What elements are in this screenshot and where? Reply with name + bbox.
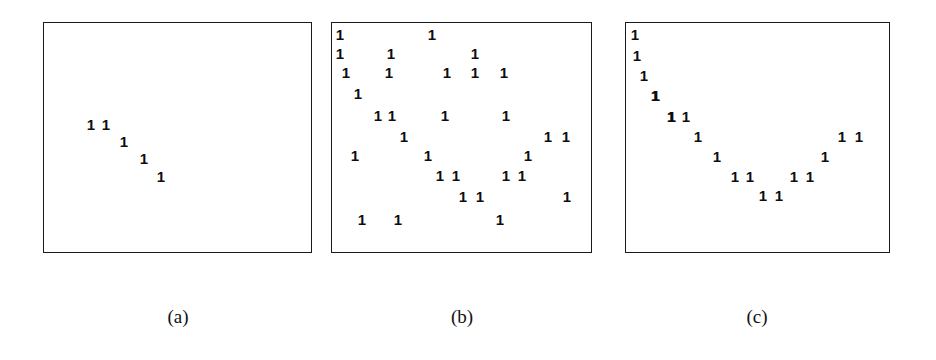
scatter-mark: 1: [562, 129, 570, 144]
scatter-mark: 1: [500, 65, 508, 80]
panel-c-frame: 1111111111111111111: [625, 22, 890, 253]
scatter-mark: 1: [87, 117, 95, 132]
scatter-mark: 1: [821, 149, 829, 164]
scatter-mark: 1: [374, 108, 382, 123]
scatter-mark: 1: [544, 129, 552, 144]
scatter-mark: 1: [855, 129, 863, 144]
scatter-mark: 1: [682, 109, 690, 124]
scatter-mark: 1: [524, 148, 532, 163]
scatter-mark: 1: [102, 117, 110, 132]
panel-a-plot-area: 11111: [44, 23, 311, 252]
scatter-mark: 1: [443, 65, 451, 80]
scatter-mark: 1: [336, 46, 344, 61]
scatter-mark: 1: [640, 68, 648, 83]
scatter-mark: 1: [428, 27, 436, 42]
scatter-mark: 1: [518, 168, 526, 183]
scatter-mark: 1: [775, 188, 783, 203]
panel-c-plot-area: 1111111111111111111: [626, 23, 889, 252]
scatter-mark: 1: [790, 169, 798, 184]
scatter-mark: 1: [388, 108, 396, 123]
scatter-mark: 1: [436, 168, 444, 183]
panel-a-caption: (a): [167, 306, 188, 328]
scatter-mark: 1: [651, 88, 659, 103]
scatter-mark: 1: [394, 212, 402, 227]
scatter-mark: 1: [746, 169, 754, 184]
scatter-mark: 1: [387, 46, 395, 61]
scatter-mark: 1: [502, 168, 510, 183]
scatter-mark: 1: [806, 169, 814, 184]
scatter-mark: 1: [400, 129, 408, 144]
scatter-mark: 1: [631, 27, 639, 42]
scatter-mark: 1: [452, 168, 460, 183]
scatter-mark: 1: [358, 212, 366, 227]
scatter-mark: 1: [759, 188, 767, 203]
scatter-mark: 1: [731, 169, 739, 184]
scatter-mark: 1: [354, 86, 362, 101]
scatter-mark: 1: [502, 108, 510, 123]
scatter-mark: 1: [140, 151, 148, 166]
scatter-mark: 1: [157, 169, 165, 184]
scatter-mark: 1: [385, 65, 393, 80]
panel-b-plot-area: 1111111111111111111111111111111: [332, 23, 591, 252]
scatter-mark: 1: [471, 65, 479, 80]
scatter-mark: 1: [351, 148, 359, 163]
scatter-mark: 1: [471, 46, 479, 61]
scatter-mark: 1: [633, 48, 641, 63]
panel-b-caption: (b): [451, 306, 473, 328]
panel-b-frame: 1111111111111111111111111111111: [331, 22, 592, 253]
scatter-mark: 1: [838, 129, 846, 144]
scatter-mark: 1: [694, 129, 702, 144]
scatter-mark: 1: [459, 189, 467, 204]
scatter-mark: 1: [424, 148, 432, 163]
scatter-mark: 1: [668, 109, 676, 124]
figure-container: 11111 (a) 111111111111111111111111111111…: [0, 0, 936, 360]
scatter-mark: 1: [496, 212, 504, 227]
scatter-mark: 1: [342, 65, 350, 80]
panel-c-caption: (c): [746, 306, 767, 328]
panel-a-frame: 11111: [43, 22, 312, 253]
scatter-mark: 1: [120, 134, 128, 149]
scatter-mark: 1: [713, 149, 721, 164]
scatter-mark: 1: [476, 189, 484, 204]
scatter-mark: 1: [441, 108, 449, 123]
scatter-mark: 1: [336, 27, 344, 42]
scatter-mark: 1: [563, 189, 571, 204]
